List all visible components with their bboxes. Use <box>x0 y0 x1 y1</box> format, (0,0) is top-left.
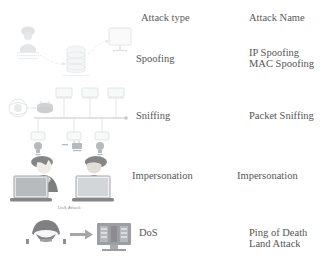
attack-type-dos: DoS <box>139 227 158 238</box>
arrow-server-to-monitor <box>88 40 109 54</box>
lower-workstations <box>31 118 109 140</box>
figure-container: Attack type Attack Name <box>0 0 334 260</box>
dos-attack-diagram <box>24 214 136 254</box>
monitor-icon <box>109 28 131 51</box>
attacker-icon <box>17 27 39 60</box>
bulb-icon-left <box>34 142 42 155</box>
attack-type-sniffing: Sniffing <box>136 110 170 121</box>
attack-name-mac-spoofing: MAC Spoofing <box>249 58 314 69</box>
hacker-icon <box>26 220 66 244</box>
attack-type-impersonation: Impersonation <box>132 170 193 181</box>
bulb-icon-right <box>96 142 104 155</box>
attack-arrow <box>70 230 93 240</box>
cloud-icon <box>9 99 27 117</box>
attack-type-spoofing: Spoofing <box>136 53 175 64</box>
attack-name-ip-spoofing: IP Spoofing <box>249 47 299 58</box>
server-icon <box>67 46 85 73</box>
server-base <box>62 75 90 76</box>
attack-name-packet-sniffing: Packet Sniffing <box>249 110 314 121</box>
arrow-attacker-to-server <box>40 55 66 66</box>
column-header-attack-type: Attack type <box>141 12 190 23</box>
upper-workstations <box>56 88 124 118</box>
attack-name-land-attack: Land Attack <box>249 238 301 249</box>
router-icon <box>37 101 53 113</box>
dos-attack-caption: DoS Attack <box>58 205 81 210</box>
spoofing-diagram <box>4 22 134 84</box>
bus-terminator <box>124 116 128 120</box>
attack-name-ping-of-death: Ping of Death <box>249 227 307 238</box>
sniffing-network-diagram <box>4 86 139 144</box>
column-header-attack-name: Attack Name <box>249 12 305 23</box>
attack-name-impersonation: Impersonation <box>237 170 298 181</box>
server-rack-icon <box>97 223 131 251</box>
message-icon <box>62 141 82 152</box>
impersonation-diagram <box>6 140 134 208</box>
person-laptop-left <box>10 156 58 202</box>
person-laptop-right <box>72 156 114 202</box>
